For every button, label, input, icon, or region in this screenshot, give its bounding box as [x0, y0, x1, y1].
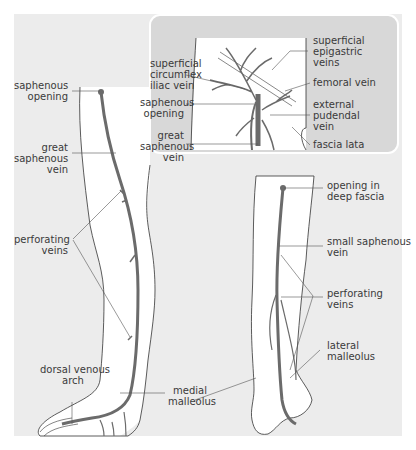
label-medial-malleolus: medial malleolus [168, 385, 212, 407]
label-saphenous-opening: saphenous opening [14, 80, 68, 102]
label-opening-in-deep-fascia: opening in deep fascia [327, 180, 384, 202]
label-small-saphenous-vein: small saphenous vein [327, 236, 411, 258]
label-inset-great-saphenous-vein: great saphenous vein [140, 130, 184, 163]
label-femoral-vein: femoral vein [313, 77, 376, 88]
label-posterior-perforating-veins: perforating veins [327, 288, 383, 310]
label-superficial-epigastric-veins: superficial epigastric veins [313, 35, 365, 68]
label-inset-saphenous-opening: saphenous opening [140, 97, 184, 119]
label-perforating-veins: perforating veins [14, 234, 68, 256]
label-great-saphenous-vein: great saphenous vein [14, 142, 68, 175]
label-dorsal-venous-arch: dorsal venous arch [40, 364, 106, 386]
label-superficial-circumflex-iliac-vein: superficial circumflex iliac vein [150, 58, 184, 91]
figure-stage: superficial circumflex iliac vein saphen… [0, 0, 416, 450]
label-external-pudendal-vein: external pudendal vein [313, 99, 360, 132]
label-fascia-lata: fascia lata [313, 139, 364, 150]
label-lateral-malleolus: lateral malleolus [327, 340, 375, 362]
